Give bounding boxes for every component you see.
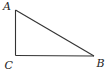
triangle-diagram: A C B <box>0 0 105 71</box>
vertex-label-b: B <box>96 57 105 70</box>
vertex-label-a: A <box>2 0 11 13</box>
vertex-label-c: C <box>5 59 14 71</box>
side-cb <box>16 56 95 57</box>
side-ab <box>16 10 95 56</box>
